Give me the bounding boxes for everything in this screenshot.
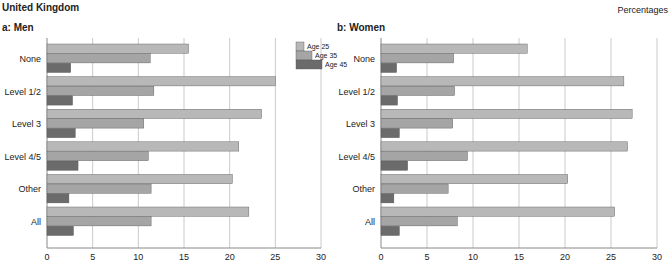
men-bar-age-45 [47, 63, 71, 72]
chart-canvas: 051015202530NoneLevel 1/2Level 3Level 4/… [0, 0, 671, 261]
men-x-tick-label: 20 [225, 252, 235, 261]
men-bar-age-35 [47, 86, 154, 95]
men-bar-age-45 [47, 96, 73, 105]
men-bar-age-25 [47, 77, 275, 86]
men-bar-age-25 [47, 207, 249, 216]
men-x-tick-label: 0 [44, 252, 49, 261]
women-bar-age-45 [381, 63, 397, 72]
women-x-tick-label: 15 [514, 252, 524, 261]
men-category-label: Level 4/5 [4, 152, 41, 162]
men-bar-age-45 [47, 194, 69, 203]
men-x-tick-label: 10 [133, 252, 143, 261]
women-bar-age-45 [381, 128, 399, 137]
women-bar-age-25 [381, 207, 615, 216]
women-category-label: All [365, 217, 375, 227]
men-bar-age-45 [47, 161, 78, 170]
women-bar-age-45 [381, 96, 398, 105]
legend-swatch-age-35 [296, 51, 312, 60]
men-x-tick-label: 5 [90, 252, 95, 261]
men-x-tick-label: 15 [179, 252, 189, 261]
women-bar-age-45 [381, 161, 408, 170]
men-category-label: Level 3 [12, 119, 41, 129]
women-x-tick-label: 25 [606, 252, 616, 261]
women-bar-age-35 [381, 86, 455, 95]
men-bar-age-35 [47, 54, 150, 63]
women-bar-age-25 [381, 109, 632, 118]
women-bar-age-25 [381, 44, 527, 53]
women-bar-age-45 [381, 226, 399, 235]
legend-label: Age 35 [315, 52, 337, 60]
men-bar-age-45 [47, 128, 75, 137]
men-bar-age-45 [47, 226, 73, 235]
women-x-tick-label: 10 [468, 252, 478, 261]
women-x-tick-label: 0 [378, 252, 383, 261]
men-x-tick-label: 25 [270, 252, 280, 261]
men-category-label: Other [18, 184, 41, 194]
women-bar-age-25 [381, 142, 628, 151]
women-category-label: None [353, 54, 375, 64]
women-category-label: Level 4/5 [338, 152, 375, 162]
women-x-tick-label: 30 [652, 252, 662, 261]
women-bar-age-35 [381, 54, 454, 63]
women-bar-age-35 [381, 119, 453, 128]
men-category-label: All [31, 217, 41, 227]
men-bar-age-35 [47, 184, 151, 193]
women-bar-age-35 [381, 184, 448, 193]
women-category-label: Level 1/2 [338, 87, 375, 97]
women-x-tick-label: 20 [560, 252, 570, 261]
men-bar-age-25 [47, 109, 262, 118]
women-bar-age-35 [381, 151, 467, 160]
men-bar-age-25 [47, 174, 232, 183]
women-category-label: Other [352, 184, 375, 194]
men-bar-age-35 [47, 151, 148, 160]
men-bar-age-35 [47, 217, 151, 226]
legend-swatch-age-45 [296, 60, 322, 69]
women-bar-age-25 [381, 174, 568, 183]
men-bar-age-35 [47, 119, 144, 128]
women-bar-age-25 [381, 77, 624, 86]
women-bar-age-35 [381, 217, 457, 226]
men-category-label: Level 1/2 [4, 87, 41, 97]
women-x-tick-label: 5 [424, 252, 429, 261]
legend-swatch-age-25 [296, 42, 304, 51]
legend-label: Age 25 [307, 43, 329, 51]
men-category-label: None [19, 54, 41, 64]
men-bar-age-25 [47, 142, 239, 151]
women-bar-age-45 [381, 194, 394, 203]
women-category-label: Level 3 [346, 119, 375, 129]
legend-label: Age 45 [325, 61, 347, 69]
men-x-tick-label: 30 [316, 252, 326, 261]
men-bar-age-25 [47, 44, 189, 53]
